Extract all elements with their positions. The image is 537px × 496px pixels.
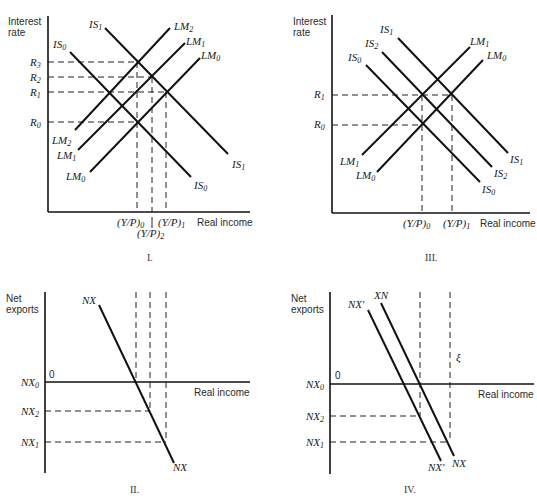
y-axis-label-line2: exports: [6, 304, 39, 315]
lm1-top-label: LM1: [185, 35, 205, 49]
nx-prime-bottom-label: NX′: [427, 461, 445, 473]
nx1-label: NX1: [305, 436, 324, 450]
lm0-bottom-label: LM0: [355, 169, 375, 183]
y-axis-label-line2: rate: [293, 27, 311, 38]
r1-label: R1: [313, 88, 325, 102]
nx0-label: NX0: [305, 378, 324, 392]
y-axis-label-line2: rate: [8, 27, 26, 38]
nx-bottom-label: NX: [451, 457, 467, 469]
y1-label: (Y/P)1: [158, 216, 185, 230]
panel-label-ii: II.: [130, 484, 139, 495]
is1-bottom-label: IS1: [231, 158, 245, 172]
lm2-bottom-label: LM2: [51, 134, 71, 148]
is0-bottom-label: IS0: [193, 179, 207, 193]
is1-bottom-label: IS1: [509, 153, 523, 167]
y-axis-label-line1: Net: [291, 293, 307, 304]
y-axis-label-line2: exports: [291, 304, 324, 315]
lm0-bottom-label: LM0: [65, 170, 85, 184]
y-axis-label-line1: Net: [6, 293, 22, 304]
lm1-curve: [78, 43, 185, 150]
is0-bottom-label: IS0: [481, 183, 495, 197]
nx2-label: NX2: [305, 410, 324, 424]
y1-label: (Y/P)1: [443, 217, 470, 231]
is0-top-label: IS0: [347, 51, 361, 65]
panel-label-i: I.: [147, 252, 153, 263]
panel-ii: Net exports 0 NX NX NX0 NX2 NX1 Real inc…: [6, 292, 250, 495]
origin-label: 0: [49, 369, 55, 380]
panel-iv: Net exports 0 NX′ XN NX′ NX ξ NX0 NX2 NX…: [291, 289, 534, 495]
nx-prime-curve: [368, 310, 441, 461]
r3-label: R3: [29, 56, 41, 70]
is0-top-label: IS0: [52, 38, 66, 52]
nx2-label: NX2: [20, 405, 39, 419]
nx-curve: [381, 303, 454, 456]
y-axis-label-line1: Interest: [293, 16, 327, 27]
y-axis-label-line1: Interest: [8, 16, 42, 27]
nx-top-label: NX: [81, 294, 97, 306]
stray-mark: ξ: [456, 351, 461, 364]
panel-label-iii: III.: [425, 252, 438, 263]
y0-label: (Y/P)0: [403, 217, 430, 231]
r0-label: R0: [29, 116, 41, 130]
nx0-label: NX0: [20, 376, 39, 390]
panel-i: Interest rate R3 R2 R1 R0 IS1 IS1 IS0 IS…: [8, 16, 253, 263]
r0-label: R0: [313, 118, 325, 132]
nx1-label: NX1: [20, 436, 39, 450]
is2-bottom-label: IS2: [493, 167, 507, 181]
lm0-top-label: LM0: [200, 49, 220, 63]
lm1-curve: [362, 47, 470, 155]
lm0-curve: [90, 58, 200, 172]
lm1-bottom-label: LM1: [56, 149, 76, 163]
lm1-top-label: LM1: [469, 35, 489, 49]
r1-label: R1: [29, 86, 41, 100]
x-axis-label: Real income: [478, 389, 534, 400]
xn-top-label: XN: [373, 289, 389, 301]
lm0-curve: [377, 60, 483, 172]
panel-label-iv: IV.: [404, 484, 416, 495]
r2-label: R2: [29, 71, 41, 85]
x-axis-label: Real income: [197, 217, 253, 228]
is-lm-nx-diagram: Interest rate R3 R2 R1 R0 IS1 IS1 IS0 IS…: [0, 0, 537, 496]
lm0-top-label: LM0: [486, 49, 506, 63]
x-axis-label: Real income: [480, 218, 536, 229]
is1-top-label: IS1: [88, 18, 102, 32]
nx-curve: [99, 305, 174, 463]
is2-top-label: IS2: [364, 37, 378, 51]
is1-top-label: IS1: [379, 23, 393, 37]
nx-bottom-label: NX: [172, 461, 188, 473]
origin-label: 0: [335, 370, 341, 381]
lm2-top-label: LM2: [173, 20, 193, 34]
panel-iii: Interest rate R1 R0 IS1 IS1 IS2 IS2 IS0 …: [293, 15, 536, 263]
nx-prime-top-label: NX′: [347, 298, 365, 310]
y2-label: (Y/P)2: [137, 227, 164, 241]
lm1-bottom-label: LM1: [339, 155, 359, 169]
x-axis-label: Real income: [194, 387, 250, 398]
